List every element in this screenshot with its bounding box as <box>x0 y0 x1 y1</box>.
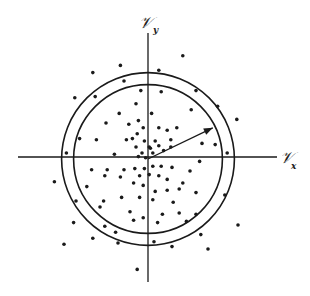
data-point <box>181 181 185 185</box>
data-point <box>104 121 108 125</box>
data-point <box>125 138 129 142</box>
data-point <box>157 68 161 72</box>
data-point <box>157 126 161 130</box>
data-point <box>137 155 141 159</box>
data-point <box>74 199 78 203</box>
data-point <box>143 139 147 143</box>
data-point <box>150 112 154 116</box>
data-point <box>169 138 173 142</box>
data-point <box>138 196 142 200</box>
data-point <box>140 151 144 155</box>
data-point <box>65 151 69 155</box>
data-point <box>225 151 229 155</box>
data-point <box>181 54 185 58</box>
data-point <box>141 126 145 130</box>
data-point <box>189 108 193 112</box>
data-point <box>161 212 165 216</box>
scatter-diagram: 𝒱 y 𝒱 x <box>0 0 310 296</box>
data-point <box>169 145 173 149</box>
data-point <box>128 210 132 214</box>
data-point <box>141 184 145 188</box>
data-point <box>102 199 106 203</box>
data-point <box>170 245 174 249</box>
data-point <box>120 196 124 200</box>
data-point <box>170 166 174 170</box>
data-point <box>143 167 147 171</box>
data-point <box>171 200 175 204</box>
data-point <box>137 119 141 123</box>
data-point <box>151 164 155 168</box>
data-point <box>159 90 163 94</box>
data-point <box>119 175 123 179</box>
data-point <box>223 193 227 197</box>
data-point <box>132 181 136 185</box>
data-point <box>122 168 126 172</box>
data-point <box>194 191 198 195</box>
data-point <box>177 187 181 191</box>
data-point <box>135 132 139 136</box>
data-point <box>114 230 118 234</box>
data-point <box>199 233 203 237</box>
data-point <box>135 268 139 272</box>
data-point <box>78 137 82 141</box>
data-point <box>235 118 239 122</box>
data-point <box>62 242 66 246</box>
data-point <box>93 95 97 99</box>
data-point <box>91 71 95 75</box>
y-axis-subscript: y <box>152 25 159 35</box>
data-point <box>157 174 161 178</box>
data-point <box>198 160 202 164</box>
data-point <box>119 64 123 68</box>
data-point <box>105 168 109 172</box>
data-point <box>152 240 156 244</box>
data-point <box>133 167 137 171</box>
data-point <box>177 211 181 215</box>
data-point <box>144 156 148 160</box>
data-point <box>149 146 153 150</box>
data-point <box>165 128 169 132</box>
data-point <box>200 142 204 146</box>
data-point <box>85 185 89 189</box>
data-point <box>194 212 198 216</box>
data-point <box>153 190 157 194</box>
data-point <box>131 137 135 141</box>
data-point <box>141 216 145 220</box>
points-group <box>53 54 240 271</box>
data-point <box>151 198 155 202</box>
data-point <box>72 221 76 225</box>
data-point <box>91 236 95 240</box>
data-point <box>132 218 136 222</box>
data-point <box>103 174 107 178</box>
data-point <box>194 89 198 93</box>
data-point <box>127 122 131 126</box>
data-point <box>116 241 120 245</box>
data-point <box>134 145 138 149</box>
data-point <box>122 79 126 83</box>
data-point <box>113 152 117 156</box>
data-point <box>188 169 192 173</box>
data-point <box>151 151 155 155</box>
data-point <box>153 139 157 143</box>
data-point <box>73 96 77 100</box>
data-point <box>90 168 94 172</box>
data-point <box>147 173 151 177</box>
data-point <box>165 178 169 182</box>
data-point <box>159 164 163 168</box>
data-point <box>53 180 57 184</box>
data-point <box>165 188 169 192</box>
data-point <box>134 102 138 106</box>
arrowhead-icon <box>203 128 213 135</box>
data-point <box>139 89 143 93</box>
data-point <box>138 174 142 178</box>
data-point <box>175 126 179 130</box>
data-point <box>162 149 166 153</box>
data-point <box>236 223 240 227</box>
data-point <box>103 224 107 228</box>
data-point <box>117 112 121 116</box>
data-point <box>157 144 161 148</box>
data-point <box>216 104 220 108</box>
x-axis-subscript: x <box>290 161 297 171</box>
data-point <box>98 205 102 209</box>
data-point <box>95 138 99 142</box>
data-point <box>156 221 160 225</box>
